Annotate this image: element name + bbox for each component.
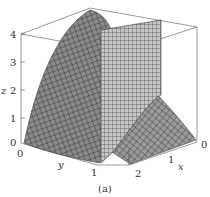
- x-axis-label: x: [178, 161, 184, 172]
- figure-caption: (a): [98, 183, 112, 194]
- z-tick-3: 3: [10, 57, 16, 68]
- z-tick-0: 0: [10, 137, 16, 148]
- surface-left: [24, 10, 112, 163]
- x-tick-1: 1: [168, 154, 174, 165]
- y-tick-1: 1: [91, 167, 97, 178]
- y-tick-0: 0: [17, 148, 23, 159]
- z-tick-4: 4: [10, 29, 16, 40]
- x-tick-2: 2: [135, 168, 141, 179]
- z-tick-1: 1: [10, 113, 16, 124]
- z-axis-label: z: [0, 85, 7, 96]
- z-axis-ticks: [21, 34, 25, 118]
- x-tick-0: 0: [201, 139, 207, 150]
- y-axis-label: y: [57, 159, 64, 170]
- 3d-plot: 4 3 2 1 0 z 0 y 1 2 1 x 0 (a): [0, 0, 210, 197]
- z-tick-2: 2: [10, 85, 16, 96]
